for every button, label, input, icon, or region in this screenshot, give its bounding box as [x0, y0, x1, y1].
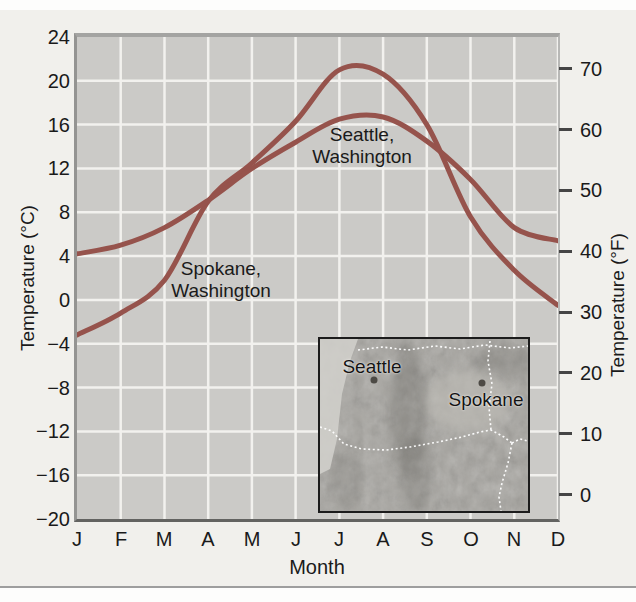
map-city-label-seattle: Seattle [342, 356, 401, 378]
celsius-tick-label: 24 [0, 26, 70, 48]
fahrenheit-tick-dash [559, 493, 572, 496]
map-city-label-spokane: Spokane [448, 389, 523, 411]
fahrenheit-tick-label: 0 [580, 484, 630, 506]
spokane-curve-label: Spokane, Washington [141, 258, 301, 302]
south-ridge-shading [400, 434, 432, 511]
x-axis-label: Month [217, 556, 417, 579]
seattle-curve-label: Seattle, Washington [282, 124, 442, 168]
map-inset: Seattle Spokane [318, 337, 530, 513]
month-tick-label: A [370, 528, 396, 550]
celsius-tick-label: 16 [0, 114, 70, 136]
map-city-dot-spokane [479, 380, 486, 387]
fahrenheit-tick-label: 70 [580, 58, 630, 80]
month-tick-label: A [195, 528, 221, 550]
fahrenheit-tick-label: 10 [580, 423, 630, 445]
celsius-tick-label: −16 [0, 464, 70, 486]
seattle-curve-label-line2: Washington [282, 146, 442, 168]
fahrenheit-tick-dash [559, 67, 572, 70]
fahrenheit-tick-dash [559, 128, 572, 131]
fahrenheit-tick-label: 60 [580, 119, 630, 141]
fahrenheit-tick-dash [559, 432, 572, 435]
spokane-curve-label-line1: Spokane, [141, 258, 301, 280]
celsius-tick-label: −12 [0, 420, 70, 442]
month-tick-label: J [283, 528, 309, 550]
celsius-tick-label: −20 [0, 508, 70, 530]
spokane-curve-label-line2: Washington [141, 280, 301, 302]
fahrenheit-tick-dash [559, 311, 572, 314]
month-tick-label: J [64, 528, 90, 550]
month-tick-label: M [151, 528, 177, 550]
fahrenheit-tick-dash [559, 189, 572, 192]
month-tick-label: S [414, 528, 440, 550]
month-tick-label: O [458, 528, 484, 550]
celsius-tick-label: 20 [0, 70, 70, 92]
seattle-curve-label-line1: Seattle, [282, 124, 442, 146]
coast-range-shading [330, 451, 362, 511]
y-axis-label-fahrenheit: Temperature (°F) [607, 195, 629, 415]
y-axis-label-celsius: Temperature (°C) [17, 168, 39, 388]
figure-panel: 24201612840−4−8−12−16−20 706050403020100… [0, 10, 636, 588]
month-tick-label: D [545, 528, 571, 550]
month-tick-label: M [239, 528, 265, 550]
month-tick-label: F [108, 528, 134, 550]
month-tick-label: J [326, 528, 352, 550]
fahrenheit-tick-dash [559, 371, 572, 374]
month-tick-label: N [501, 528, 527, 550]
page: { "chart_data": { "type": "line", "categ… [0, 0, 636, 602]
fahrenheit-tick-dash [559, 250, 572, 253]
